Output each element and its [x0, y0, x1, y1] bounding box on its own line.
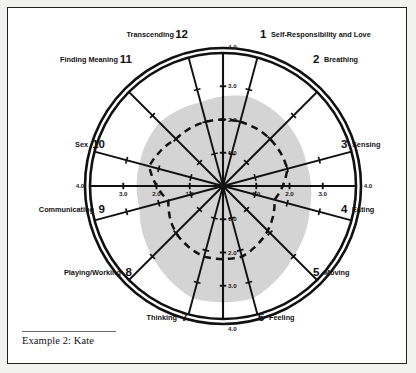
- axis-tick-label: 2.0: [228, 116, 237, 123]
- category-label-1: Self-Responsibility and Love: [271, 30, 371, 39]
- category-label-3: Sensing: [352, 140, 380, 149]
- category-label-6: Feeling: [269, 313, 295, 322]
- axis-tick-label: 1.0: [228, 149, 237, 156]
- category-label-2: Breathing: [324, 55, 358, 64]
- axis-tick-label: 1.0: [228, 215, 237, 222]
- axis-tick-label: 4.0: [76, 182, 85, 189]
- category-number-8: 8: [126, 266, 133, 278]
- axis-tick-label: 1.0: [252, 190, 261, 197]
- category-number-9: 9: [99, 203, 105, 215]
- page-root: 1.02.03.01.02.03.01.02.03.01.02.03.04.04…: [0, 0, 416, 373]
- axis-tick-label: 3.0: [119, 190, 128, 197]
- caption-divider: [22, 331, 116, 332]
- category-number-5: 5: [313, 266, 320, 278]
- axis-tick-label: 4.0: [364, 182, 373, 189]
- wheel-chart: 1.02.03.01.02.03.01.02.03.01.02.03.04.04…: [8, 8, 408, 365]
- category-number-4: 4: [341, 203, 348, 215]
- category-number-6: 6: [258, 311, 264, 323]
- category-label-9: Communicating: [39, 205, 94, 214]
- category-number-1: 1: [260, 28, 267, 40]
- axis-tick-label: 3.0: [228, 82, 237, 89]
- category-number-7: 7: [182, 311, 188, 323]
- axis-tick-label: 1.0: [185, 190, 194, 197]
- category-label-4: Eating: [352, 205, 374, 214]
- axis-tick-label: 2.0: [152, 190, 161, 197]
- category-number-11: 11: [120, 53, 133, 65]
- axis-tick-label: 3.0: [228, 282, 237, 289]
- axis-tick-label: 4.0: [228, 43, 237, 50]
- category-label-7: Thinking: [147, 313, 177, 322]
- wheel-chart-svg: 1.02.03.01.02.03.01.02.03.01.02.03.04.04…: [8, 8, 408, 365]
- category-number-3: 3: [341, 138, 347, 150]
- category-label-10: Sex: [75, 140, 88, 149]
- category-number-12: 12: [175, 28, 188, 40]
- axis-tick-label: 2.0: [228, 249, 237, 256]
- figure-frame: 1.02.03.01.02.03.01.02.03.01.02.03.04.04…: [7, 7, 407, 364]
- category-label-12: Transcending: [127, 30, 174, 39]
- axis-tick-label: 4.0: [228, 325, 237, 332]
- axis-tick-label: 3.0: [318, 190, 327, 197]
- caption-label: Example 2: Kate: [22, 335, 94, 346]
- category-label-11: Finding Meaning: [60, 55, 118, 64]
- category-number-10: 10: [92, 138, 105, 150]
- category-label-8: Playing/Working: [64, 268, 121, 277]
- axis-tick-label: 2.0: [285, 190, 294, 197]
- category-number-2: 2: [313, 53, 319, 65]
- category-label-5: Moving: [324, 268, 350, 277]
